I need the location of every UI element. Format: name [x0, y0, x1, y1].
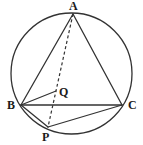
circumcircle	[11, 13, 132, 134]
geometry-figure: A B C P Q	[0, 0, 143, 145]
point-label-c: C	[128, 99, 137, 111]
segment-ac	[73, 14, 122, 105]
point-label-q: Q	[59, 86, 68, 98]
geometry-canvas	[0, 0, 143, 145]
segment-bq	[21, 91, 56, 105]
segment-pc	[48, 105, 122, 127]
point-label-p: P	[42, 131, 49, 143]
segment-ap-dashed	[48, 14, 73, 127]
point-label-a: A	[69, 0, 78, 12]
segment-bp	[21, 105, 48, 127]
point-label-b: B	[7, 99, 15, 111]
